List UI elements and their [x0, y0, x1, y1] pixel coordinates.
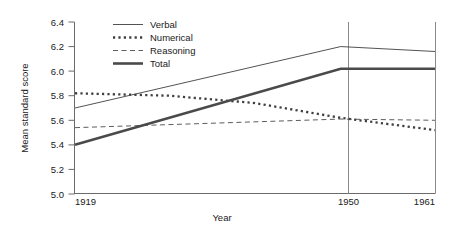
y-tick-label-5-0: 5.0 — [51, 189, 64, 200]
y-tick-label-6-0: 6.0 — [51, 66, 64, 77]
y-tick-label-5-4: 5.4 — [51, 139, 64, 150]
legend-label-total: Total — [150, 58, 170, 69]
legend-label-reasoning: Reasoning — [150, 45, 195, 56]
x-tick-label-1919: 1919 — [75, 196, 96, 207]
y-tick-label-5-2: 5.2 — [51, 164, 64, 175]
y-tick-label-6-4: 6.4 — [51, 17, 64, 28]
x-tick-label-1950: 1950 — [338, 196, 359, 207]
y-axis-title: Mean standard score — [19, 63, 30, 152]
y-tick-label-5-6: 5.6 — [51, 115, 64, 126]
y-tick-label-5-8: 5.8 — [51, 90, 64, 101]
line-chart: 6.4 6.2 6.0 5.8 5.6 5.4 5.2 5.0 Mean sta… — [0, 0, 465, 228]
y-tick-label-6-2: 6.2 — [51, 41, 64, 52]
legend-label-verbal: Verbal — [150, 19, 177, 30]
x-tick-label-1961: 1961 — [414, 196, 435, 207]
legend-label-numerical: Numerical — [150, 32, 193, 43]
x-axis-title: Year — [212, 212, 231, 223]
chart-figure: 6.4 6.2 6.0 5.8 5.6 5.4 5.2 5.0 Mean sta… — [0, 0, 465, 228]
